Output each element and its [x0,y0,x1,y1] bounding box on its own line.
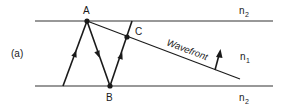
label-point-c: C [135,26,142,37]
svg-text:1: 1 [246,57,250,64]
point-a [84,18,89,23]
propagation-arrow-icon [215,49,223,70]
arrow-up-icon [71,49,79,57]
label-n1-core: n 1 [240,51,250,64]
wavefront-line [87,21,240,79]
svg-text:n: n [240,51,246,62]
label-n2-bottom: n 2 [239,92,249,105]
point-b [107,83,112,88]
svg-text:2: 2 [245,11,249,18]
point-c [124,34,129,39]
wavefront-label: Wavefront [165,37,210,63]
svg-text:n: n [239,92,245,103]
waveguide-diagram: A B C (a) Wavefront n 2 n 1 n 2 [0,0,286,107]
svg-text:2: 2 [245,98,249,105]
label-point-b: B [106,92,113,103]
label-n2-top: n 2 [239,5,249,18]
svg-text:n: n [239,5,245,16]
label-point-a: A [83,5,90,16]
ray-direction-arrows [71,49,125,59]
arrow-down-icon [94,50,102,58]
panel-label: (a) [11,48,23,59]
